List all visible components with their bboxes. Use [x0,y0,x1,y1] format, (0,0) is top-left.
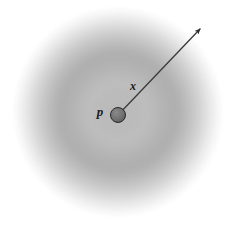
radial-field-figure: p x [0,0,238,233]
point-label-p: p [96,104,104,119]
vector-label-x: x [129,79,136,93]
origin-point-marker [111,108,126,123]
figure-canvas: p x [0,0,238,233]
